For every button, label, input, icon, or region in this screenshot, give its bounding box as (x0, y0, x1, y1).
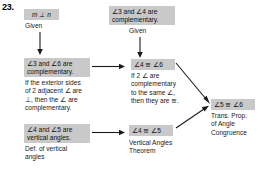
problem-number: 23. (2, 2, 14, 12)
reason-45-vertical-angles: Def. of vertical angles (25, 145, 87, 162)
reason-a5-cong-a6: Trans. Prop. of Angle Congruence (211, 112, 261, 137)
arrow-given-mn-to-36-comp (36, 32, 46, 56)
statement-box-a5-cong-a6: ∠5 ≅ ∠6 (211, 99, 255, 110)
reason-a4-cong-a5: Vertical Angles Theorem (129, 139, 189, 156)
arrow-36-comp-to-a4-cong-a6 (92, 62, 128, 72)
arrow-given-34-to-a4-cong-a6 (136, 37, 146, 59)
statement-box-a4-cong-a5: ∠4 ≅ ∠5 (129, 125, 173, 136)
reason-given-mn: Given (25, 22, 73, 30)
proof-flowchart-figure: 23. m ⊥ n Given ∠3 and ∠4 are complement… (0, 0, 262, 182)
statement-box-45-vertical-angles: ∠4 and ∠5 are vertical angles. (24, 124, 90, 143)
reason-given-34-complementary: Given (129, 27, 169, 35)
statement-box-a4-cong-a6: ∠4 ≅ ∠6 (131, 59, 175, 70)
reason-36-complementary: If the exterior sides of 2 adjacent ∠ ar… (25, 79, 100, 112)
statement-box-given-34-complementary: ∠3 and ∠4 are complementary. (109, 6, 175, 25)
statement-box-given-mn: m ⊥ n (24, 9, 59, 20)
statement-box-36-complementary: ∠3 and ∠6 are complementary. (24, 58, 90, 77)
arrow-45-vertical-to-a4-cong-a5 (92, 128, 128, 138)
